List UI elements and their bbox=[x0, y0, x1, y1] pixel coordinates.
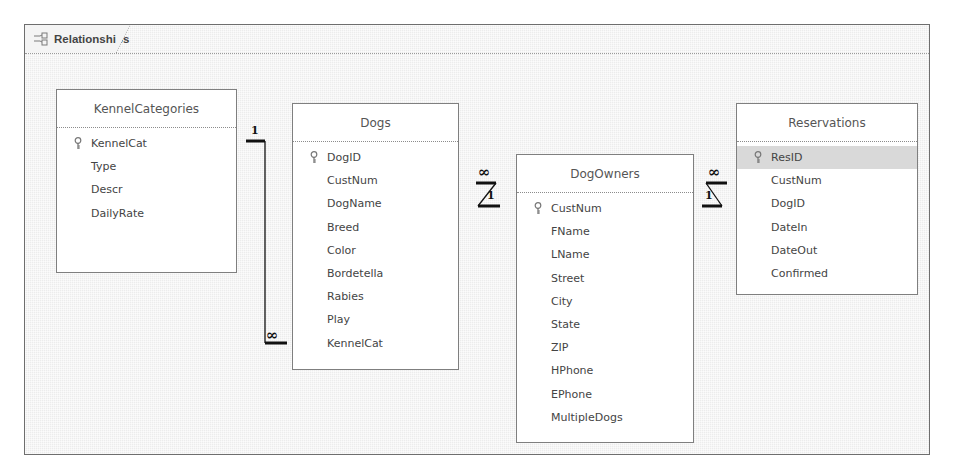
table-dogowners[interactable]: DogOwners CustNum FName LName Street Cit… bbox=[516, 154, 694, 443]
field-item[interactable]: ZIP bbox=[517, 336, 693, 359]
field-name: ResID bbox=[771, 151, 802, 164]
field-name: DogID bbox=[327, 151, 361, 164]
cardinality-one: 1 bbox=[705, 189, 713, 202]
primary-key-icon bbox=[309, 151, 319, 164]
field-name: State bbox=[551, 318, 580, 331]
field-name: Rabies bbox=[327, 290, 364, 303]
field-item[interactable]: HPhone bbox=[517, 359, 693, 382]
field-item[interactable]: Descr bbox=[57, 178, 236, 201]
field-name: Street bbox=[551, 272, 584, 285]
cardinality-one: 1 bbox=[251, 124, 259, 137]
field-item[interactable]: FName bbox=[517, 220, 693, 243]
field-name: KennelCat bbox=[327, 337, 383, 350]
field-item[interactable]: MultipleDogs bbox=[517, 406, 693, 429]
table-title[interactable]: Dogs bbox=[293, 104, 458, 142]
field-item[interactable]: CustNum bbox=[737, 169, 917, 192]
field-item[interactable]: DateOut bbox=[737, 239, 917, 262]
field-name: FName bbox=[551, 225, 590, 238]
field-name: DailyRate bbox=[91, 207, 144, 220]
table-reservations[interactable]: Reservations ResID CustNum DogID DateIn … bbox=[736, 103, 918, 295]
field-item[interactable]: KennelCat bbox=[293, 332, 458, 355]
field-item[interactable]: LName bbox=[517, 243, 693, 266]
field-name: Play bbox=[327, 313, 350, 326]
relationship-kennelcat[interactable] bbox=[246, 141, 287, 343]
field-name: Color bbox=[327, 244, 356, 257]
table-title[interactable]: KennelCategories bbox=[57, 90, 236, 128]
field-name: Breed bbox=[327, 221, 359, 234]
field-item[interactable]: State bbox=[517, 313, 693, 336]
cardinality-one: 1 bbox=[487, 189, 495, 202]
field-list: ResID CustNum DogID DateIn DateOut Confi… bbox=[737, 142, 917, 285]
field-list: CustNum FName LName Street City State ZI… bbox=[517, 193, 693, 429]
field-item-selected[interactable]: ResID bbox=[737, 146, 917, 169]
field-item[interactable]: KennelCat bbox=[57, 132, 236, 155]
field-item[interactable]: DailyRate bbox=[57, 202, 236, 225]
field-item[interactable]: Rabies bbox=[293, 285, 458, 308]
field-item[interactable]: Street bbox=[517, 267, 693, 290]
table-title[interactable]: DogOwners bbox=[517, 155, 693, 193]
field-item[interactable]: DogID bbox=[293, 146, 458, 169]
field-item[interactable]: CustNum bbox=[293, 169, 458, 192]
field-name: CustNum bbox=[327, 174, 378, 187]
primary-key-icon bbox=[753, 151, 763, 164]
field-item[interactable]: Bordetella bbox=[293, 262, 458, 285]
cardinality-many: ∞ bbox=[266, 326, 279, 344]
field-item[interactable]: City bbox=[517, 290, 693, 313]
field-name: LName bbox=[551, 248, 590, 261]
primary-key-icon bbox=[73, 137, 83, 150]
field-item[interactable]: DateIn bbox=[737, 216, 917, 239]
field-name: HPhone bbox=[551, 364, 593, 377]
field-name: Bordetella bbox=[327, 267, 383, 280]
field-list: DogID CustNum DogName Breed Color Bordet… bbox=[293, 142, 458, 355]
field-item[interactable]: DogName bbox=[293, 192, 458, 215]
field-name: DateOut bbox=[771, 244, 817, 257]
field-name: KennelCat bbox=[91, 137, 147, 150]
table-kennelcategories[interactable]: KennelCategories KennelCat Type Descr Da… bbox=[56, 89, 237, 273]
field-name: MultipleDogs bbox=[551, 411, 623, 424]
field-list: KennelCat Type Descr DailyRate bbox=[57, 128, 236, 225]
cardinality-many: ∞ bbox=[708, 163, 721, 181]
field-item[interactable]: EPhone bbox=[517, 383, 693, 406]
field-name: DogName bbox=[327, 197, 382, 210]
field-name: Type bbox=[91, 160, 116, 173]
table-dogs[interactable]: Dogs DogID CustNum DogName Breed Color B… bbox=[292, 103, 459, 370]
field-item[interactable]: Color bbox=[293, 239, 458, 262]
table-title[interactable]: Reservations bbox=[737, 104, 917, 142]
field-item[interactable]: Type bbox=[57, 155, 236, 178]
field-name: DateIn bbox=[771, 221, 808, 234]
field-name: Descr bbox=[91, 183, 123, 196]
primary-key-icon bbox=[533, 202, 543, 215]
field-item[interactable]: CustNum bbox=[517, 197, 693, 220]
field-name: ZIP bbox=[551, 341, 568, 354]
field-name: EPhone bbox=[551, 388, 592, 401]
field-name: CustNum bbox=[771, 174, 822, 187]
field-item[interactable]: Confirmed bbox=[737, 262, 917, 285]
field-item[interactable]: DogID bbox=[737, 192, 917, 215]
field-name: CustNum bbox=[551, 202, 602, 215]
cardinality-many: ∞ bbox=[478, 163, 491, 181]
field-name: DogID bbox=[771, 197, 805, 210]
field-name: Confirmed bbox=[771, 267, 828, 280]
field-item[interactable]: Breed bbox=[293, 216, 458, 239]
field-item[interactable]: Play bbox=[293, 308, 458, 331]
field-name: City bbox=[551, 295, 573, 308]
